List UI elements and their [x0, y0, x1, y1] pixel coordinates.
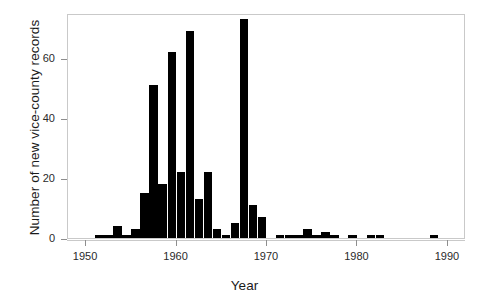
- bar-1988: [430, 235, 438, 238]
- bar-1973: [294, 235, 302, 238]
- bar-1960: [177, 172, 185, 238]
- bar-1954: [122, 235, 130, 238]
- bar-1967: [240, 19, 248, 238]
- bar-1976: [321, 232, 329, 238]
- y-tick-label-60: 60: [21, 52, 55, 64]
- bar-1953: [113, 226, 121, 238]
- y-tick-label-40: 40: [21, 112, 55, 124]
- bar-1958: [158, 184, 166, 238]
- x-tick-label-1990: 1990: [417, 250, 477, 262]
- plot-area: [67, 14, 465, 239]
- bar-1964: [213, 229, 221, 238]
- x-axis-title: Year: [0, 278, 489, 293]
- x-tick-label-1950: 1950: [55, 250, 115, 262]
- x-tick-label-1960: 1960: [146, 250, 206, 262]
- bar-series: [68, 15, 464, 238]
- bar-1982: [376, 235, 384, 238]
- x-tick-label-1980: 1980: [326, 250, 386, 262]
- bar-1952: [104, 235, 112, 238]
- y-tick-label-0: 0: [21, 232, 55, 244]
- y-tick-label-20: 20: [21, 172, 55, 184]
- bar-1972: [285, 235, 293, 238]
- bar-1966: [231, 223, 239, 238]
- bar-1981: [367, 235, 375, 238]
- bar-1961: [186, 31, 194, 238]
- bar-1965: [222, 235, 230, 238]
- bar-1968: [249, 205, 257, 238]
- x-tick-1990: [447, 240, 448, 246]
- x-tick-1950: [85, 240, 86, 246]
- bar-1951: [95, 235, 103, 238]
- bar-1971: [276, 235, 284, 238]
- bar-1969: [258, 217, 266, 238]
- bar-1956: [140, 193, 148, 238]
- bar-1974: [303, 229, 311, 238]
- x-tick-label-1970: 1970: [236, 250, 296, 262]
- bar-1975: [312, 235, 320, 238]
- chart-figure: Number of new vice-county records 020406…: [0, 0, 489, 304]
- bar-1979: [348, 235, 356, 238]
- bar-1963: [204, 172, 212, 238]
- x-tick-1970: [266, 240, 267, 246]
- bar-1955: [131, 229, 139, 238]
- bar-1957: [149, 85, 157, 238]
- bar-1977: [330, 235, 338, 238]
- bar-1959: [168, 52, 176, 238]
- x-tick-1960: [176, 240, 177, 246]
- bar-1962: [195, 199, 203, 238]
- x-tick-1980: [356, 240, 357, 246]
